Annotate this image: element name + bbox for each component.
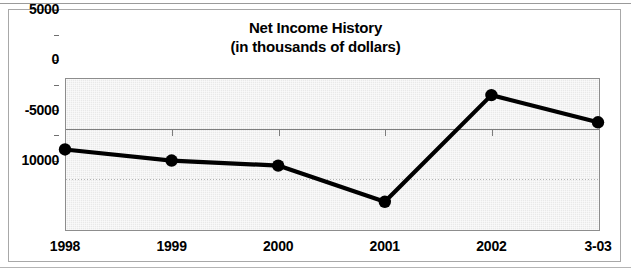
series-line: [65, 95, 598, 202]
y-axis-label--10000: 10000: [1, 152, 59, 168]
data-series-net-income: [65, 78, 598, 229]
data-point-3-03: [592, 116, 604, 128]
y-minor-tick--2500: [54, 85, 59, 86]
y-minor-tick--7500: [54, 135, 59, 136]
chart-title-line-2: (in thousands of dollars): [9, 37, 622, 56]
scanned-page: Net Income History (in thousands of doll…: [0, 0, 631, 271]
data-point-2001: [379, 196, 391, 208]
x-axis-label-1998: 1998: [25, 238, 105, 254]
x-axis: 199819992000200120023-03: [65, 238, 598, 262]
chart-title-line-1: Net Income History: [249, 19, 382, 36]
data-point-1998: [59, 143, 71, 155]
x-axis-label-3-03: 3-03: [558, 238, 631, 254]
x-axis-label-1999: 1999: [132, 238, 212, 254]
data-point-2002: [485, 89, 497, 101]
y-axis-label-5000: 5000: [1, 1, 59, 17]
y-axis: 50000-500010000: [3, 10, 59, 161]
x-axis-label-2002: 2002: [451, 238, 531, 254]
chart-frame: Net Income History (in thousands of doll…: [8, 9, 621, 262]
x-axis-label-2001: 2001: [345, 238, 425, 254]
data-point-1999: [165, 154, 177, 166]
y-axis-label--5000: -5000: [1, 102, 59, 118]
x-axis-label-2000: 2000: [238, 238, 318, 254]
page-bottom-rule: [0, 267, 631, 268]
y-axis-label-0: 0: [1, 51, 59, 67]
y-minor-tick-2500: [54, 35, 59, 36]
page-top-rule: [0, 3, 631, 4]
data-point-2000: [272, 159, 284, 171]
chart-title: Net Income History (in thousands of doll…: [9, 18, 622, 56]
